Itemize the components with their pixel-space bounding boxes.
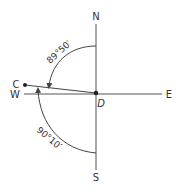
label-south: S [93,172,99,183]
label-west: W [10,89,20,100]
label-d: D [97,98,105,109]
arc-lower [38,90,96,153]
point-d [94,91,99,96]
bearing-diagram: N S E W C D 89°50′ 90°10′ [0,0,181,195]
label-north: N [92,11,99,22]
line-dc [25,85,96,93]
label-c: C [13,79,20,90]
point-c [23,83,27,87]
label-east: E [166,89,172,100]
